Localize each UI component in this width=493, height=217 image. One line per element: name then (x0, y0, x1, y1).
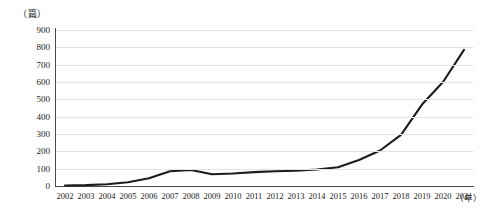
y-tick-label: 0 (46, 181, 51, 191)
data-series-line (56, 30, 473, 186)
x-axis-unit-label: （年） (455, 191, 482, 203)
x-tick-label: 2015 (330, 191, 347, 201)
y-tick-label: 400 (37, 112, 51, 122)
line-chart: （篇） 0100200300400500600700800900 2002200… (0, 0, 493, 217)
series-polyline (65, 50, 464, 186)
x-tick-label: 2005 (120, 191, 137, 201)
x-tick-label: 2018 (393, 191, 410, 201)
gridline (56, 151, 473, 152)
x-axis-tick-labels: 2002200320042005200620072008200920102011… (56, 191, 473, 211)
x-tick-label: 2006 (141, 191, 158, 201)
gridline (56, 99, 473, 100)
x-tick-label: 2003 (78, 191, 95, 201)
gridline (56, 134, 473, 135)
y-tick-label: 800 (37, 42, 51, 52)
y-axis-tick-labels: 0100200300400500600700800900 (0, 0, 50, 217)
gridline (56, 186, 473, 187)
x-tick-label: 2002 (57, 191, 74, 201)
x-tick-label: 2012 (267, 191, 284, 201)
x-tick-label: 2007 (162, 191, 179, 201)
x-tick-label: 2016 (351, 191, 368, 201)
y-tick-label: 900 (37, 25, 51, 35)
y-tick-label: 100 (37, 164, 51, 174)
x-tick-label: 2017 (372, 191, 389, 201)
y-tick-label: 200 (37, 146, 51, 156)
x-tick-label: 2020 (435, 191, 452, 201)
y-tick-label: 300 (37, 129, 51, 139)
gridline (56, 47, 473, 48)
x-tick-label: 2010 (225, 191, 242, 201)
gridline (56, 65, 473, 66)
x-tick-label: 2013 (288, 191, 305, 201)
y-tick-label: 700 (37, 60, 51, 70)
x-tick-label: 2011 (246, 191, 263, 201)
gridline (56, 117, 473, 118)
plot-area (56, 30, 473, 186)
gridline (56, 30, 473, 31)
gridline (56, 169, 473, 170)
x-tick-label: 2008 (183, 191, 200, 201)
x-tick-label: 2009 (204, 191, 221, 201)
y-tick-label: 600 (37, 77, 51, 87)
gridline (56, 82, 473, 83)
x-tick-label: 2014 (309, 191, 326, 201)
x-tick-label: 2019 (414, 191, 431, 201)
y-tick-label: 500 (37, 94, 51, 104)
x-tick-label: 2004 (99, 191, 116, 201)
